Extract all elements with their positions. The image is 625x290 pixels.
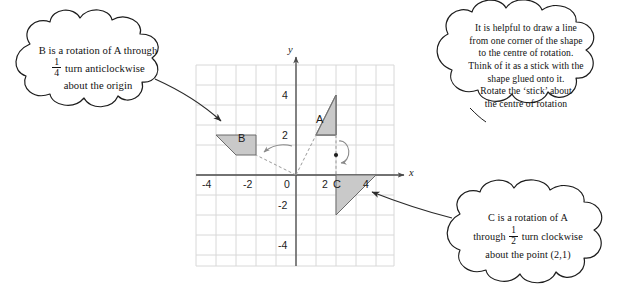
origin-label: 0 xyxy=(284,178,290,190)
rotation-arc-point21 xyxy=(339,141,349,163)
cloud-left-line3: about the origin xyxy=(14,79,182,92)
y-tick-4: 4 xyxy=(282,89,288,101)
cloud-left-line1: B is a rotation of A through xyxy=(14,44,182,57)
shape-a-label: A xyxy=(316,113,323,125)
figure-canvas: -4 -2 0 2 4 4 2 -2 -4 x y A B C B is a r… xyxy=(0,0,625,290)
cloud-left-turn-text: turn anticlockwise xyxy=(65,63,145,74)
shape-c-label: C xyxy=(333,178,341,190)
rotation-arc-origin xyxy=(264,145,292,152)
cloud-top-line1: It is helpful to draw a line xyxy=(438,22,614,35)
y-axis-label: y xyxy=(288,44,293,55)
x-tick-2: 2 xyxy=(322,178,328,190)
cloud-bottom-line3: about the point (2,1) xyxy=(440,247,616,263)
x-tick-4: 4 xyxy=(363,178,369,190)
stick-a-origin xyxy=(296,135,316,175)
fraction-numerator: 1 xyxy=(509,226,518,236)
centre-of-rotation-dot xyxy=(334,153,338,157)
shape-b-label: B xyxy=(238,132,245,144)
y-tick-minus2: -2 xyxy=(278,199,287,211)
cloud-top-line3: to the centre of rotation. xyxy=(438,47,614,60)
cloud-bottom-through: through xyxy=(473,231,505,242)
cloud-left-text: B is a rotation of A through 1 4 turn an… xyxy=(14,44,182,92)
y-tick-minus4: -4 xyxy=(278,239,287,251)
y-tick-2: 2 xyxy=(282,129,288,141)
fraction-denominator: 4 xyxy=(52,67,61,78)
cloud-top-line2: from one corner of the shape xyxy=(438,35,614,48)
fraction-denominator: 2 xyxy=(509,236,518,247)
cloud-top-right-text: It is helpful to draw a line from one co… xyxy=(438,22,614,111)
fraction-numerator: 1 xyxy=(52,57,61,67)
cloud-bottom-line1: C is a rotation of A xyxy=(440,210,616,226)
cloud-top-line6: Rotate the ‘stick’ about xyxy=(438,85,614,98)
x-axis-label: x xyxy=(409,167,414,178)
cloud-bottom-right-text: C is a rotation of A through 1 2 turn cl… xyxy=(440,210,616,262)
cloud-bottom-turn-text: turn clockwise xyxy=(522,231,583,242)
x-tick-minus4: -4 xyxy=(202,178,211,190)
cloud-top-line4: Think of it as a stick with the xyxy=(438,60,614,73)
fraction-one-half: 1 2 xyxy=(509,226,518,247)
cloud-bottom-line2: through 1 2 turn clockwise xyxy=(440,226,616,247)
cloud-left-line2: 1 4 turn anticlockwise xyxy=(14,57,182,78)
cloud-top-line5: shape glued onto it. xyxy=(438,73,614,86)
cloud-top-line7: the centre of rotation xyxy=(438,98,614,111)
grid-lines xyxy=(196,65,394,266)
fraction-one-quarter: 1 4 xyxy=(52,57,61,78)
x-tick-minus2: -2 xyxy=(243,178,252,190)
